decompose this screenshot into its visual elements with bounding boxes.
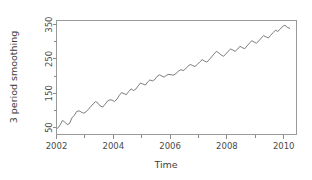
x-axis-title: Time bbox=[153, 159, 177, 170]
y-tick-label: 250 bbox=[45, 51, 55, 67]
y-tick-label: 50 bbox=[45, 122, 55, 133]
x-tick-label: 2010 bbox=[273, 141, 295, 151]
chart-figure: 5015025035020022004200620082010Time3 per… bbox=[0, 0, 312, 180]
y-tick-label: 150 bbox=[45, 85, 55, 101]
y-axis-title: 3 period smoothing bbox=[8, 31, 19, 124]
x-tick-label: 2002 bbox=[46, 141, 68, 151]
x-tick-label: 2006 bbox=[159, 141, 181, 151]
y-tick-label: 350 bbox=[45, 17, 55, 33]
time-series-plot: 5015025035020022004200620082010Time3 per… bbox=[0, 0, 312, 180]
x-tick-label: 2008 bbox=[216, 141, 238, 151]
x-tick-label: 2004 bbox=[102, 141, 124, 151]
